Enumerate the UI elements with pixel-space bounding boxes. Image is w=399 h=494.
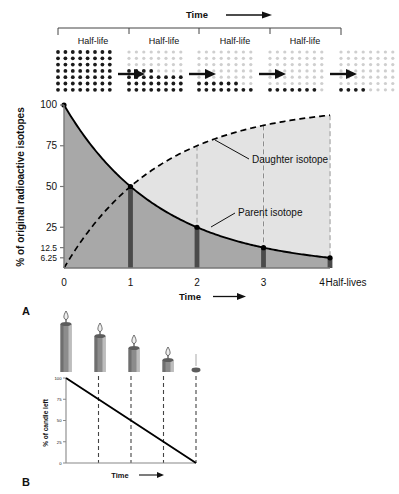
dot-light xyxy=(376,82,379,85)
dot-light xyxy=(291,50,294,53)
dot-light xyxy=(391,69,394,72)
dot-dark xyxy=(268,88,272,92)
dot-dark xyxy=(86,56,90,60)
dot-dark xyxy=(86,82,90,86)
dot-dark xyxy=(212,88,216,92)
dot-dark xyxy=(71,82,75,86)
y-tick-label: 50 xyxy=(46,181,58,192)
x-tick-label: 4 xyxy=(319,277,325,288)
dot-light xyxy=(164,50,167,53)
candle-shade-right xyxy=(69,324,72,372)
dot-dark xyxy=(354,88,358,92)
dot-light xyxy=(384,88,387,91)
candle-shade-right xyxy=(137,348,140,372)
dot-light xyxy=(212,69,215,72)
candle-shade-right xyxy=(103,336,106,372)
dot-light xyxy=(347,82,350,85)
dot-dark xyxy=(56,63,60,67)
dot-light xyxy=(283,57,286,60)
dot-light xyxy=(347,63,350,66)
dot-dark xyxy=(127,82,131,86)
dot-dark xyxy=(135,82,139,86)
dot-dark xyxy=(172,88,176,92)
dot-light xyxy=(276,50,279,53)
dot-light xyxy=(150,63,153,66)
candle-y-tick-label: 50 xyxy=(57,418,62,423)
figure-svg: Time Half-life Half-life Half-life Half-… xyxy=(0,0,399,494)
dot-dark xyxy=(219,88,223,92)
dot-light xyxy=(362,63,365,66)
dot-light xyxy=(291,76,294,79)
dot-light xyxy=(320,63,323,66)
dot-dark xyxy=(172,82,176,86)
dot-light xyxy=(391,57,394,60)
dot-dark xyxy=(164,75,168,79)
dot-dark xyxy=(149,69,153,73)
dot-light xyxy=(320,88,323,91)
y-tick-label: 75 xyxy=(46,140,58,151)
dot-dark xyxy=(127,88,131,92)
dot-dark xyxy=(108,75,112,79)
dot-light xyxy=(376,69,379,72)
y-tick-label: 12.5 xyxy=(40,243,57,253)
dot-light xyxy=(384,50,387,53)
dot-light xyxy=(242,50,245,53)
dot-light xyxy=(227,50,230,53)
candle-top xyxy=(163,358,174,362)
dot-light xyxy=(227,63,230,66)
dot-dark xyxy=(305,88,309,92)
dot-light xyxy=(283,76,286,79)
dot-light xyxy=(142,57,145,60)
dot-dark xyxy=(86,50,90,54)
candle-shade-left xyxy=(163,360,166,372)
dot-light xyxy=(347,57,350,60)
dot-dark xyxy=(179,75,183,79)
dot-light xyxy=(291,63,294,66)
dot-light xyxy=(249,50,252,53)
time-label-top: Time xyxy=(186,9,208,20)
figure-root: Time Half-life Half-life Half-life Half-… xyxy=(0,0,399,494)
dot-dark xyxy=(56,69,60,73)
parent-data-point xyxy=(128,184,133,189)
dot-dark xyxy=(164,82,168,86)
dot-dark xyxy=(212,82,216,86)
dot-light xyxy=(362,57,365,60)
dot-light xyxy=(220,69,223,72)
dot-light xyxy=(376,57,379,60)
x-tick-label: 3 xyxy=(261,277,267,288)
dot-light xyxy=(291,69,294,72)
dot-light xyxy=(276,82,279,85)
dot-dark xyxy=(149,82,153,86)
dot-light xyxy=(242,57,245,60)
daughter-isotope-label: Daughter isotope xyxy=(252,154,329,165)
dot-dark xyxy=(64,63,68,67)
dot-light xyxy=(227,69,230,72)
dot-light xyxy=(268,57,271,60)
dot-dark xyxy=(56,82,60,86)
dot-light xyxy=(391,82,394,85)
dot-light xyxy=(362,76,365,79)
dot-light xyxy=(172,69,175,72)
dot-dark xyxy=(78,50,82,54)
dot-light xyxy=(212,50,215,53)
dot-dark xyxy=(78,82,82,86)
dot-light xyxy=(339,76,342,79)
dot-light xyxy=(291,57,294,60)
dot-dark xyxy=(283,88,287,92)
dot-light xyxy=(384,76,387,79)
dot-dark xyxy=(242,88,246,92)
parent-data-point xyxy=(194,225,199,230)
dot-light xyxy=(249,63,252,66)
dot-light xyxy=(313,69,316,72)
dot-light xyxy=(283,50,286,53)
dot-light xyxy=(384,57,387,60)
dot-light xyxy=(179,50,182,53)
dot-light xyxy=(384,82,387,85)
dot-light xyxy=(391,63,394,66)
dot-dark xyxy=(108,56,112,60)
dot-dark xyxy=(149,75,153,79)
dot-light xyxy=(384,63,387,66)
dot-light xyxy=(150,50,153,53)
dot-dark xyxy=(142,88,146,92)
dot-light xyxy=(234,69,237,72)
